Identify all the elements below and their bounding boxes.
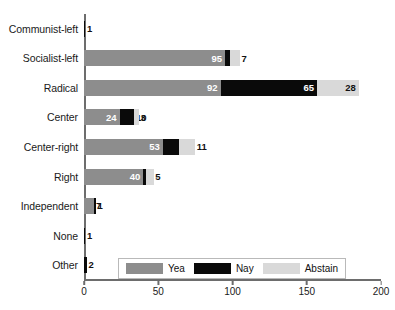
bar-value-label: 11 [195,142,207,152]
bar-value-label: 2 [87,260,94,270]
bar-value-label: 5 [154,172,161,182]
bar-segment-nay: 1 [84,228,85,244]
bar-row: Communist-left1 [84,14,381,44]
bar-stack: 2 [84,257,87,273]
bar-rows: Communist-left1Socialist-left9537Radical… [84,14,381,280]
bar-segment-nay: 65 [221,80,318,96]
bar-row: None1 [84,221,381,251]
bar-stack: 9537 [84,50,240,66]
category-label: Socialist-left [23,52,78,64]
category-label: Communist-left [9,23,78,35]
legend-label: Nay [236,263,254,274]
bar-segment-abstain: 28 [317,80,359,96]
bar-stack: 1 [84,21,85,37]
category-label: Independent [21,200,78,212]
bar-stack: 926528 [84,80,359,96]
bar-stack: 531111 [84,139,195,155]
x-tick: 150 [298,281,315,297]
chart-legend: YeaNayAbstain [118,258,346,279]
legend-swatch [263,263,300,274]
x-tick-mark [380,281,382,285]
bar-value-label: 3 [139,113,146,123]
bar-stack: 1 [84,228,85,244]
stacked-bar-chart: Communist-left1Socialist-left9537Radical… [0,0,395,310]
bar-value-label: 1 [96,201,103,211]
bar-row: Socialist-left9537 [84,44,381,74]
x-tick-mark [158,281,160,285]
bar-segment-nay: 2 [84,257,87,273]
bar-row: Center-right531111 [84,132,381,162]
bar-segment-abstain: 5 [146,169,153,185]
bar-segment-yea: 53 [84,139,163,155]
bar-value-label: 95 [211,54,225,64]
category-label: Right [54,171,78,183]
x-axis-ticks: 050100150200 [84,281,381,301]
x-tick-mark [306,281,308,285]
bar-segment-nay: 10 [120,109,135,125]
bar-stack: 4025 [84,169,154,185]
bar-row: Center24103 [84,103,381,133]
legend-item-yea: Yea [126,263,185,274]
bar-row: Radical926528 [84,73,381,103]
bar-value-label: 28 [345,83,359,93]
bar-value-label: 53 [149,142,163,152]
x-tick-label: 150 [298,286,315,297]
category-label: Other [52,259,78,271]
x-tick: 200 [373,281,390,297]
x-tick-label: 200 [373,286,390,297]
category-label: None [53,230,78,242]
bar-segment-yea: 7 [84,198,94,214]
category-label: Center [47,111,78,123]
bar-stack: 24103 [84,109,139,125]
bar-segment-nay: 11 [163,139,179,155]
x-tick-label: 100 [224,286,241,297]
x-tick-mark [83,281,85,285]
category-label: Radical [44,82,78,94]
x-tick-mark [232,281,234,285]
bar-segment-yea: 24 [84,109,120,125]
x-tick: 50 [153,281,164,297]
bar-segment-abstain: 3 [134,109,138,125]
legend-item-abstain: Abstain [263,263,338,274]
category-label: Center-right [24,141,78,153]
x-tick-label: 0 [81,286,87,297]
bar-segment-nay: 1 [94,198,95,214]
x-tick: 100 [224,281,241,297]
bar-segment-yea: 92 [84,80,221,96]
bar-segment-yea: 95 [84,50,225,66]
bar-value-label: 92 [207,83,221,93]
bar-segment-abstain: 7 [230,50,240,66]
bar-value-label: 1 [85,231,92,241]
legend-label: Abstain [305,263,338,274]
bar-value-label: 65 [304,83,318,93]
bar-segment-nay: 1 [84,21,85,37]
legend-label: Yea [168,263,185,274]
bar-row: Right4025 [84,162,381,192]
legend-item-nay: Nay [194,263,254,274]
bar-row: Independent71 [84,191,381,221]
plot-area: Communist-left1Socialist-left9537Radical… [84,14,381,280]
x-tick: 0 [81,281,87,297]
x-tick-label: 50 [153,286,164,297]
bar-value-label: 24 [106,113,120,123]
bar-value-label: 40 [130,172,144,182]
bar-segment-yea: 40 [84,169,143,185]
legend-swatch [194,263,231,274]
bar-segment-abstain: 11 [179,139,195,155]
legend-swatch [126,263,163,274]
bar-value-label: 1 [85,24,92,34]
bar-value-label: 7 [240,54,247,64]
bar-stack: 71 [84,198,96,214]
